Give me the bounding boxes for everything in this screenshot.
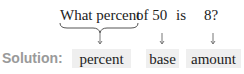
percent-box: percent — [72, 49, 131, 68]
base-box: base — [146, 49, 179, 68]
question-is: is — [176, 7, 186, 24]
amount-box: amount — [186, 49, 241, 68]
arrow-down-icon — [97, 33, 103, 45]
arrow-down-icon — [159, 33, 165, 45]
question-of-50: of 50 — [136, 7, 167, 24]
solution-label: Solution: — [2, 50, 63, 66]
question-amount-value: 8? — [204, 7, 218, 24]
arrow-down-icon — [210, 33, 216, 45]
